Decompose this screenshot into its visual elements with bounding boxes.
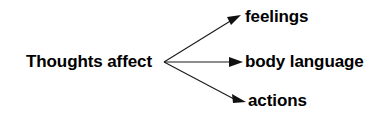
node-label-feelings: feelings: [245, 8, 308, 25]
edge-thoughts-to-actions: [164, 62, 246, 103]
node-label-thoughts-affect: Thoughts affect: [26, 53, 152, 70]
arrowhead-body-language-icon: [229, 57, 243, 67]
arrowhead-feelings-icon: [227, 15, 241, 25]
edge-thoughts-to-feelings: [164, 15, 241, 62]
edge-line-feelings: [164, 20, 232, 62]
node-label-actions: actions: [248, 92, 307, 109]
edge-line-actions: [164, 62, 234, 99]
node-label-body-language: body language: [245, 53, 364, 70]
arrowhead-actions-icon: [232, 94, 246, 103]
edge-thoughts-to-body-language: [164, 57, 243, 67]
diagram-canvas: Thoughts affect feelings body language a…: [0, 0, 388, 123]
